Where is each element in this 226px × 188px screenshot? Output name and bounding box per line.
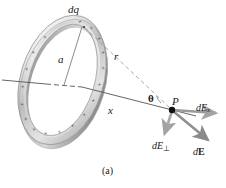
label-angle-theta: θ: [148, 93, 154, 104]
label-dE-x-prefix: dE: [196, 102, 207, 113]
physics-figure-charged-ring: + + + + + + + + + + + + + + + + + +: [0, 0, 226, 188]
ring-field-diagram-svg: + + + + + + + + + + + + + + + + + +: [0, 0, 226, 188]
vector-dE-total: [173, 111, 208, 140]
radius-line-a: [64, 27, 82, 85]
vector-dE-perp: [165, 111, 173, 134]
figure-caption: (a): [102, 166, 113, 176]
label-dE-x: dEx: [196, 103, 210, 114]
label-dE-perp-prefix: dE: [152, 140, 163, 151]
label-dE-x-subscript: x: [207, 106, 210, 113]
point-p-marker: [169, 107, 175, 113]
label-point-p: P: [172, 96, 179, 107]
label-dE-perp-subscript: ⊥: [163, 144, 170, 153]
label-axial-distance-x: x: [108, 105, 113, 116]
label-dE-total: dE: [193, 147, 205, 157]
label-radius-a: a: [58, 54, 64, 65]
charge-element-marker: [83, 26, 85, 28]
label-dE-total-vector: E: [198, 146, 205, 157]
label-distance-r: r: [114, 51, 118, 62]
label-dE-perp: dE⊥: [152, 141, 170, 153]
label-dq: dq: [68, 4, 79, 15]
